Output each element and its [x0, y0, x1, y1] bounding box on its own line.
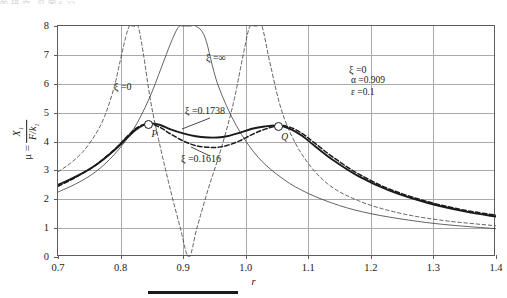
fixed-point-label-p: P: [151, 129, 157, 139]
y-axis-label-prefix: μ =: [21, 145, 33, 160]
y-tick-label: 0: [27, 252, 49, 262]
x-tick-mark: [371, 255, 372, 259]
caption-rule: [148, 291, 238, 294]
parameter-box: α =0.909 ε =0.1: [351, 74, 385, 98]
y-axis-numerator-sub: 1: [17, 127, 25, 131]
x-tick-mark: [121, 255, 122, 259]
y-tick-mark: [54, 142, 58, 143]
annotation-zeta-optimum: ξ =0.1738: [185, 105, 225, 117]
x-tick-label: 1.2: [354, 262, 388, 273]
y-tick-label: 2: [27, 194, 49, 204]
y-tick-label: 3: [27, 165, 49, 175]
parameter-alpha: α =0.909: [351, 74, 385, 86]
x-tick-mark: [58, 255, 59, 259]
annotation-zeta-infinity: ξ =∞: [206, 52, 226, 64]
figure-container: μ = X1 F/k1 PQ 0123456780.70.80.91.01.11…: [0, 0, 507, 298]
curve-0-1616: [58, 124, 496, 216]
annotation-zeta-alternate: ξ =0.1616: [181, 153, 221, 165]
y-tick-mark: [54, 170, 58, 171]
x-axis-label: r: [0, 276, 507, 287]
fixed-point-label-q: Q: [281, 132, 288, 142]
x-tick-label: 1.1: [291, 262, 325, 273]
y-tick-label: 7: [27, 50, 49, 60]
x-tick-label: 1.0: [229, 262, 263, 273]
y-tick-mark: [54, 84, 58, 85]
y-tick-mark: [54, 199, 58, 200]
fixed-point-marker-q: [274, 122, 283, 131]
y-tick-mark: [54, 228, 58, 229]
x-tick-label: 0.9: [166, 262, 200, 273]
y-tick-label: 8: [27, 21, 49, 31]
y-tick-mark: [54, 26, 58, 27]
annotation-zeta-zero-left: ξ =0: [114, 81, 132, 93]
x-tick-label: 1.4: [479, 262, 507, 273]
fixed-point-marker-p: [144, 120, 153, 129]
y-axis-denominator-sub: 1: [34, 123, 42, 127]
x-tick-mark: [433, 255, 434, 259]
curves-svg: [58, 26, 496, 257]
y-tick-mark: [54, 113, 58, 114]
y-axis-numerator: X: [11, 130, 22, 136]
x-tick-mark: [496, 255, 497, 259]
x-tick-mark: [308, 255, 309, 259]
y-tick-label: 6: [27, 79, 49, 89]
x-tick-label: 0.8: [104, 262, 138, 273]
annotation-leader-line: [182, 118, 210, 129]
x-tick-mark: [183, 255, 184, 259]
x-tick-mark: [246, 255, 247, 259]
x-tick-label: 0.7: [41, 262, 75, 273]
plot-area: PQ 0123456780.70.80.91.01.11.21.31.4 ξ =…: [57, 25, 495, 256]
x-tick-label: 1.3: [416, 262, 450, 273]
y-tick-mark: [54, 55, 58, 56]
y-tick-label: 1: [27, 223, 49, 233]
y-tick-label: 5: [27, 108, 49, 118]
parameter-epsilon: ε =0.1: [351, 86, 385, 98]
y-tick-label: 4: [27, 137, 49, 147]
